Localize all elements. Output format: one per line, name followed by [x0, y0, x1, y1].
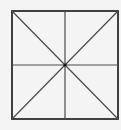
diagram-canvas: [0, 0, 121, 130]
square-diagram: [0, 0, 121, 130]
center-point: [63, 63, 66, 66]
